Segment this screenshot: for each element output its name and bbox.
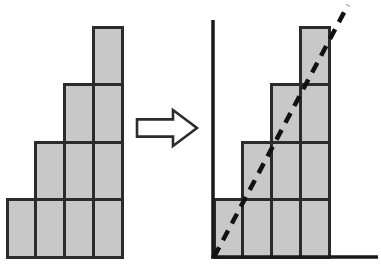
staircase-diagram xyxy=(0,0,381,269)
transformation-arrow xyxy=(137,110,197,146)
block-cell-c2-r2 xyxy=(36,142,65,200)
bar-cell-c4-r1 xyxy=(300,200,329,258)
block-cell-c2-r1 xyxy=(36,200,65,258)
bar-cell-c4-r2 xyxy=(300,142,329,200)
block-cell-c4-r4 xyxy=(93,27,122,85)
bar-cell-c4-r3 xyxy=(300,85,329,143)
arrow-shape xyxy=(137,110,197,146)
block-cell-c4-r2 xyxy=(93,142,122,200)
bar-cell-c3-r3 xyxy=(272,85,301,143)
bar-cell-c2-r1 xyxy=(243,200,272,258)
figure-canvas xyxy=(0,0,381,269)
block-cell-c1-r1 xyxy=(7,200,36,258)
bar-cell-c3-r1 xyxy=(272,200,301,258)
block-cell-c3-r1 xyxy=(65,200,94,258)
bar-cell-c2-r2 xyxy=(243,142,272,200)
left-staircase-figure xyxy=(7,27,122,257)
block-cell-c3-r2 xyxy=(65,142,94,200)
block-cell-c3-r3 xyxy=(65,85,94,143)
bar-cell-c4-r4 xyxy=(300,27,329,85)
block-cell-c4-r1 xyxy=(93,200,122,258)
bar-cell-c3-r2 xyxy=(272,142,301,200)
block-cell-c4-r3 xyxy=(93,85,122,143)
